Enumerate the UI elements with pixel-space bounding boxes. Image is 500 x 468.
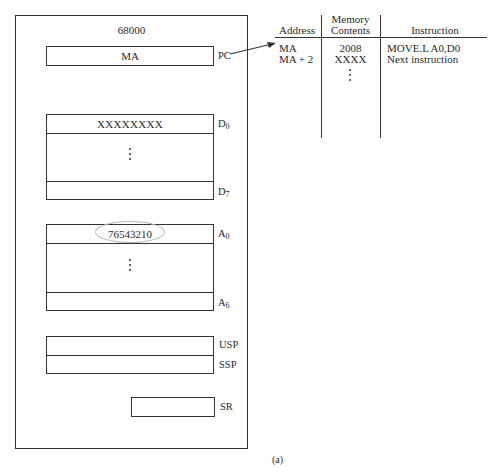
row2-instruction: Next instruction [387,53,458,65]
pc-value: MA [47,50,213,62]
divider-d7 [46,181,214,182]
table-col-divider-2 [380,15,381,138]
pc-register: MA [46,46,214,66]
row2-contents: XXXX [321,53,380,65]
a6-label: A6 [218,297,230,312]
sr-label: SR [220,401,233,413]
header-address: Address [279,24,315,36]
header-contents-line2: Contents [321,24,380,36]
table-col-divider-1 [321,15,322,138]
a0-value: 76543210 [46,228,214,240]
d-ellipsis-icon [128,145,132,163]
d0-label: D0 [218,118,230,133]
usp-label: USP [219,339,238,351]
divider-usp-ssp [46,355,214,356]
divider-a6 [46,292,214,293]
divider-d0 [46,133,214,134]
a-ellipsis-icon [128,256,132,274]
d0-value: XXXXXXXX [46,118,214,130]
table-ellipsis-icon [348,66,352,84]
cpu-title: 68000 [15,24,248,36]
figure-caption: (a) [272,454,283,466]
divider-a0 [46,243,214,244]
header-instruction: Instruction [382,24,488,36]
row2-address: MA + 2 [279,53,313,65]
status-register [131,397,215,417]
d7-label: D7 [218,186,230,201]
a0-label: A0 [218,228,230,243]
pc-to-memory-arrow-icon [228,38,278,58]
ssp-label: SSP [219,359,237,371]
table-header-rule [275,37,487,38]
